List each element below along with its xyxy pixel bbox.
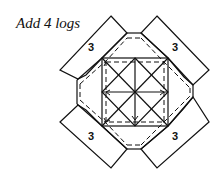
log-label-top-left: 3 <box>88 41 94 53</box>
quilt-block-diagram: 3 3 3 3 <box>0 0 221 178</box>
log-label-bottom-left: 3 <box>88 130 94 142</box>
log-label-top-right: 3 <box>172 41 178 53</box>
log-label-bottom-right: 3 <box>172 130 178 142</box>
